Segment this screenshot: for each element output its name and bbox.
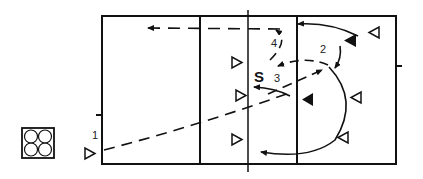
player-triangle-icon (232, 57, 242, 68)
defense-players-filled (302, 34, 356, 106)
label-step-2: 2 (320, 43, 326, 55)
label-step-3: 3 (274, 72, 280, 84)
rotation-formation-icon (22, 128, 54, 158)
path-2-arrow (335, 46, 340, 68)
filled-player-triangle-icon (344, 34, 356, 47)
player-triangle-icon (85, 148, 95, 159)
label-step-4: 4 (271, 37, 277, 49)
filled-player-triangle-icon (302, 93, 313, 106)
volleyball-play-diagram: 1 2 3 4 S (0, 0, 423, 179)
label-step-1: 1 (92, 129, 98, 141)
label-setter: S (254, 68, 264, 85)
player-triangle-icon (232, 134, 242, 145)
player-triangle-icon (369, 27, 379, 38)
player-triangle-icon (236, 90, 246, 101)
player-triangle-icon (351, 92, 361, 103)
top-solid-arrow (298, 24, 358, 36)
path-1-dashed (104, 92, 292, 150)
offense-players (85, 57, 246, 159)
top-dashed-arrow (148, 28, 280, 29)
defense-players-open (338, 27, 379, 143)
path-3-dashed-arrow (278, 60, 328, 66)
